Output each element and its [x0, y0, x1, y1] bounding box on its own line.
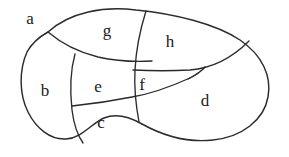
region-label-g: g: [103, 22, 112, 39]
region-label-c: c: [97, 114, 105, 131]
region-label-f: f: [139, 76, 145, 93]
region-label-b: b: [41, 82, 50, 99]
region-label-e: e: [94, 78, 102, 95]
diagram-canvas: a b c d e f g h: [0, 0, 289, 157]
region-label-d: d: [201, 92, 210, 109]
region-label-a: a: [26, 10, 34, 27]
region-label-h: h: [166, 33, 175, 50]
